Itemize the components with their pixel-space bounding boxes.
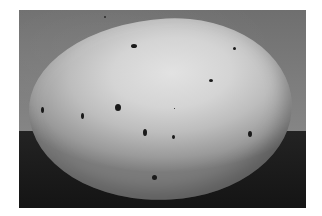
speckle-10 <box>248 131 252 137</box>
dust-spot-1 <box>104 16 106 18</box>
speckle-7 <box>174 108 175 109</box>
speckle-11 <box>152 175 157 180</box>
speckle-5 <box>81 113 84 119</box>
egg-photograph <box>19 10 306 208</box>
speckle-9 <box>172 135 175 139</box>
speckle-8 <box>143 129 147 136</box>
speckle-4 <box>41 107 44 113</box>
speckle-2 <box>233 47 236 50</box>
speckle-6 <box>115 104 121 111</box>
speckle-3 <box>209 79 213 82</box>
speckle-1 <box>131 44 137 48</box>
